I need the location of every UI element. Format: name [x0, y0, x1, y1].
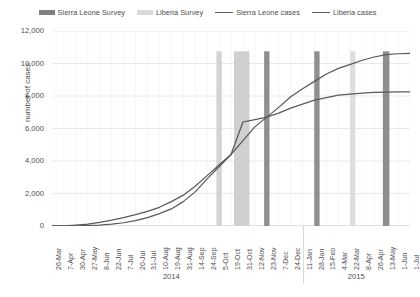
x-tick-label: 15-Feb — [329, 248, 336, 270]
legend-item-liberia-cases: Liberia cases — [312, 8, 377, 17]
x-tick-label: 7-Jul — [127, 255, 134, 270]
x-group-label: 2015 — [303, 272, 410, 282]
plot-area — [52, 31, 410, 226]
legend-swatch-sierra-leone-cases — [215, 12, 233, 13]
x-tick-label: 26-Mar — [55, 248, 62, 270]
x-tick-label: 30-Apr — [79, 249, 86, 270]
x-tick-label: 7-Dec — [282, 251, 289, 270]
x-tick-label: 4-Mar — [341, 252, 348, 270]
x-axis-group-labels: 20142015 — [52, 272, 410, 286]
legend-label-sierra-leone-cases: Sierra Leone cases — [236, 8, 300, 17]
x-tick-label: 8-Jun — [103, 252, 110, 270]
legend-swatch-liberia-cases — [312, 12, 330, 13]
legend-swatch-liberia-survey — [137, 10, 153, 15]
legend-label-liberia-cases: Liberia cases — [333, 8, 377, 17]
x-tick-label: 8-Apr — [365, 253, 372, 270]
x-tick-label: 14-Sep — [198, 247, 205, 270]
x-tick-label: 10-Aug — [162, 247, 169, 270]
x-tick-label: 27-May — [91, 247, 98, 270]
plot-svg — [52, 31, 410, 226]
x-tick-label: 24-Sep — [210, 247, 217, 270]
x-axis-tick-labels: 26-Mar7-Apr30-Apr27-May8-Jun22-Jun7-Jul2… — [52, 228, 410, 274]
x-tick-label: 20-Jul — [139, 251, 146, 270]
x-group-label: 2014 — [52, 272, 291, 282]
x-tick-label: 28-Jan — [318, 249, 325, 270]
legend-item-sierra-leone-survey: Sierra Leone Survey — [39, 8, 125, 17]
legend-item-sierra-leone-cases: Sierra Leone cases — [215, 8, 300, 17]
y-tick-label: 2,000 — [0, 190, 44, 198]
y-tick-label: 4,000 — [0, 157, 44, 165]
x-tick-label: 7-Apr — [67, 253, 74, 270]
x-tick-label: 19-Oct — [234, 249, 241, 270]
y-tick-label: 0 — [0, 222, 44, 230]
x-tick-label: 24-Dec — [294, 247, 301, 270]
x-tick-label: 23-Nov — [270, 247, 277, 270]
x-tick-label: 12-Nov — [258, 247, 265, 270]
x-tick-label: 31-Oct — [246, 249, 253, 270]
y-axis-title: number of cases — [23, 33, 32, 153]
x-tick-label: 31-Jul — [150, 251, 157, 270]
x-tick-label: 19-Aug — [174, 247, 181, 270]
legend-label-sierra-leone-survey: Sierra Leone Survey — [58, 8, 125, 17]
x-group-separator — [303, 226, 304, 284]
x-tick-label: 26-Apr — [377, 249, 384, 270]
x-tick-label: 22-Mar — [353, 248, 360, 270]
x-tick-label: 11-Jan — [306, 249, 313, 270]
x-tick-label: 1-Jul — [413, 255, 420, 270]
x-tick-label: 13-May — [389, 247, 396, 270]
legend-swatch-sierra-leone-survey — [39, 10, 55, 15]
x-tick-label: 5-Oct — [222, 253, 229, 270]
x-tick-label: 22-Jun — [115, 249, 122, 270]
legend-item-liberia-survey: Liberia Survey — [137, 8, 203, 17]
x-tick-label: 1-Jun — [401, 252, 408, 270]
legend-label-liberia-survey: Liberia Survey — [156, 8, 203, 17]
chart-legend: Sierra Leone Survey Liberia Survey Sierr… — [0, 4, 415, 20]
x-tick-label: 31-Aug — [186, 247, 193, 270]
